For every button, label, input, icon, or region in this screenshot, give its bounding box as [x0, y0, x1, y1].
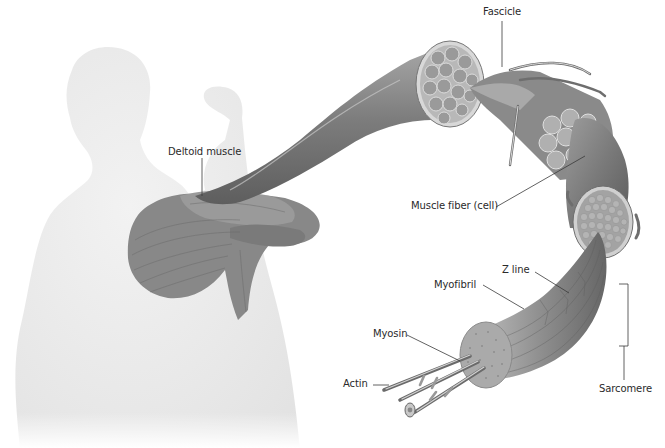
leader-myofibril: [483, 285, 524, 309]
label-myofibril: Myofibril: [434, 279, 476, 291]
label-fascicle: Fascicle: [483, 6, 521, 18]
label-z-line: Z line: [502, 264, 529, 276]
label-myosin: Myosin: [373, 328, 407, 340]
label-muscle-fiber: Muscle fiber (cell): [411, 200, 498, 212]
muscle-structure-diagram: [0, 0, 665, 448]
label-deltoid-muscle: Deltoid muscle: [168, 146, 241, 158]
myofibril-illustration: [460, 232, 606, 388]
sarcomere-bracket: [619, 284, 628, 346]
fascicle-cross-section: [416, 41, 484, 127]
muscle-fiber-illustration: [566, 118, 639, 258]
label-sarcomere: Sarcomere: [599, 383, 652, 395]
label-actin: Actin: [343, 378, 368, 390]
leader-myosin: [407, 335, 460, 361]
